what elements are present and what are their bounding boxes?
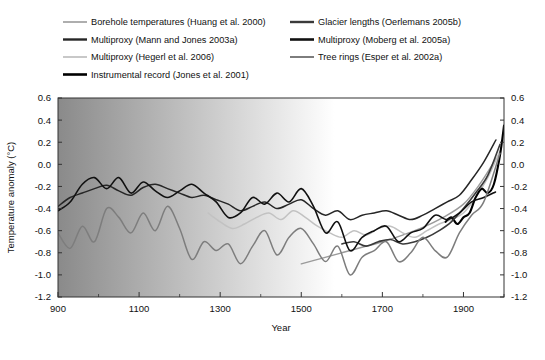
- x-axis-title: Year: [271, 322, 290, 333]
- y-tick-label-left: 0.0: [38, 159, 51, 170]
- plot-background-gradient: [58, 98, 504, 297]
- climate-reconstruction-figure: Borehole temperatures (Huang et al. 2000…: [0, 0, 545, 360]
- legend-label: Multiproxy (Mann and Jones 2003a): [91, 35, 238, 45]
- y-tick-label-left: 0.2: [38, 137, 51, 148]
- y-tick-label-right: -0.8: [511, 247, 527, 258]
- x-tick-label: 1500: [291, 303, 312, 314]
- legend-label: Multiproxy (Moberg et al. 2005a): [318, 35, 450, 45]
- legend-label: Multiproxy (Hegerl et al. 2006): [91, 52, 214, 62]
- y-tick-label-right: -1.0: [511, 269, 527, 280]
- y-tick-label-right: 0.6: [511, 92, 524, 103]
- legend-label: Glacier lengths (Oerlemans 2005b): [318, 17, 461, 27]
- y-tick-label-left: 0.6: [38, 92, 51, 103]
- legend-label: Tree rings (Esper et al. 2002a): [318, 52, 442, 62]
- legend-label: Instrumental record (Jones et al. 2001): [91, 70, 249, 80]
- y-tick-label-left: -1.0: [35, 269, 51, 280]
- y-tick-label-left: -0.6: [35, 225, 51, 236]
- x-tick-label: 900: [50, 303, 66, 314]
- y-tick-label-right: -0.2: [511, 181, 527, 192]
- x-tick-label: 1300: [210, 303, 231, 314]
- legend-label: Borehole temperatures (Huang et al. 2000…: [91, 17, 266, 27]
- x-tick-label: 1100: [129, 303, 149, 314]
- y-tick-label-right: 0.2: [511, 137, 524, 148]
- y-tick-label-left: -0.8: [35, 247, 51, 258]
- legend: Borehole temperatures (Huang et al. 2000…: [63, 17, 461, 80]
- y-tick-label-right: 0.4: [511, 115, 524, 126]
- y-tick-label-left: -0.2: [35, 181, 51, 192]
- y-tick-label-left: -0.4: [35, 203, 51, 214]
- y-tick-label-right: -0.4: [511, 203, 527, 214]
- y-tick-label-right: -0.6: [511, 225, 527, 236]
- y-axis-title: Temperature anomaly (°C): [5, 142, 16, 254]
- y-tick-label-right: -1.2: [511, 291, 527, 302]
- y-tick-label-right: 0.0: [511, 159, 524, 170]
- y-tick-label-left: -1.2: [35, 291, 51, 302]
- x-tick-label: 1700: [372, 303, 393, 314]
- y-tick-label-left: 0.4: [38, 115, 51, 126]
- x-tick-label: 1900: [453, 303, 474, 314]
